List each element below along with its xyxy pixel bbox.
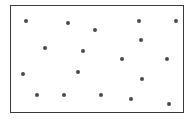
dot-9 [120,57,124,61]
dot-18 [167,102,171,106]
dot-17 [129,97,133,101]
dot-12 [76,70,80,74]
dot-16 [99,93,103,97]
dot-6 [139,38,143,42]
dot-2 [66,21,70,25]
dot-14 [35,93,39,97]
dot-15 [62,93,66,97]
dot-10 [165,57,169,61]
dot-11 [21,72,25,76]
dot-5 [174,19,178,23]
dot-4 [137,19,141,23]
dot-1 [24,19,28,23]
dot-8 [81,49,85,53]
dot-3 [93,28,97,32]
dot-13 [140,77,144,81]
dot-7 [43,46,47,50]
